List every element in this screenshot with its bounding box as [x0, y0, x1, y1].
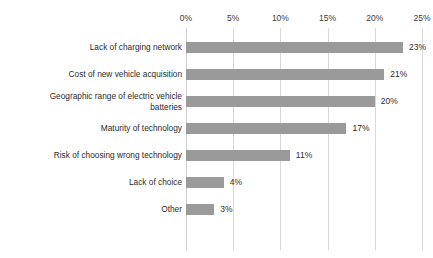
- chart-rows: Lack of charging network23%Cost of new v…: [0, 28, 433, 250]
- chart-row: Lack of choice4%: [0, 177, 433, 204]
- chart-row: Risk of choosing wrong technology11%: [0, 150, 433, 177]
- category-label: Cost of new vehicle acquisition: [4, 69, 182, 80]
- bar-value-label: 21%: [390, 69, 407, 80]
- bar: [186, 69, 384, 80]
- category-label: Maturity of technology: [4, 123, 182, 134]
- bar-value-label: 20%: [381, 96, 398, 107]
- x-tick-label: 5%: [227, 11, 239, 25]
- category-label: Lack of charging network: [4, 42, 182, 53]
- x-tick-label: 10%: [272, 11, 289, 25]
- bar-value-label: 4%: [230, 177, 242, 188]
- bar-chart: 0%5%10%15%20%25% Lack of charging networ…: [0, 0, 433, 258]
- bar-value-label: 17%: [352, 123, 369, 134]
- category-label: Geographic range of electric vehicle bat…: [4, 91, 182, 112]
- bar: [186, 150, 290, 161]
- x-axis-tick-labels: 0%5%10%15%20%25%: [0, 11, 433, 25]
- bar: [186, 177, 224, 188]
- x-tick-label: 20%: [366, 11, 383, 25]
- category-label: Lack of choice: [4, 177, 182, 188]
- chart-row: Maturity of technology17%: [0, 123, 433, 150]
- chart-row: Lack of charging network23%: [0, 42, 433, 69]
- bar: [186, 123, 346, 134]
- category-label: Risk of choosing wrong technology: [4, 150, 182, 161]
- chart-row: Geographic range of electric vehicle bat…: [0, 96, 433, 123]
- clipped-title-text: [58, 0, 258, 3]
- bar-value-label: 3%: [220, 204, 232, 215]
- category-label: Other: [4, 204, 182, 215]
- bar: [186, 204, 214, 215]
- bar-value-label: 11%: [296, 150, 312, 161]
- bar: [186, 42, 403, 53]
- bar-value-label: 23%: [409, 42, 426, 53]
- x-tick-label: 15%: [319, 11, 336, 25]
- bar: [186, 96, 375, 107]
- chart-row: Other3%: [0, 204, 433, 231]
- x-tick-label: 0%: [180, 11, 192, 25]
- x-tick-label: 25%: [413, 11, 430, 25]
